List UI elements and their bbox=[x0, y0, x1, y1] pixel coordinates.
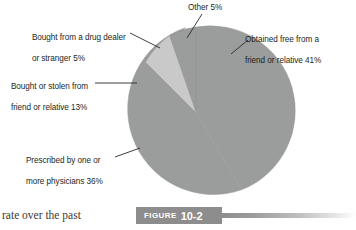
label-drug-dealer: Bought from a drug dealer or stranger 5% bbox=[23, 23, 126, 74]
label-obtained-free-line1: Obtained free from a bbox=[245, 35, 319, 44]
label-prescribed-line2: more physicians 36% bbox=[26, 177, 103, 186]
label-prescribed: Prescribed by one or more physicians 36% bbox=[17, 146, 103, 197]
figure-page: Other 5% Obtained free from a friend or … bbox=[0, 0, 356, 230]
label-bought-stolen-line1: Bought or stolen from bbox=[11, 82, 88, 91]
label-bought-stolen-line2: friend or relative 13% bbox=[11, 103, 87, 112]
leader-line-drug-dealer bbox=[130, 33, 160, 48]
label-drug-dealer-line1: Bought from a drug dealer bbox=[32, 33, 126, 42]
body-text-fragment: rate over the past bbox=[2, 209, 81, 221]
leader-line-prescribed bbox=[115, 148, 140, 157]
label-obtained-free-line2: friend or relative 41% bbox=[245, 56, 321, 65]
label-other: Other 5% bbox=[188, 3, 222, 13]
label-prescribed-line1: Prescribed by one or bbox=[26, 156, 101, 165]
figure-rule-bar bbox=[222, 213, 356, 218]
label-bought-stolen: Bought or stolen from friend or relative… bbox=[2, 72, 88, 123]
figure-word: FIGURE bbox=[136, 211, 177, 220]
label-drug-dealer-line2: or stranger 5% bbox=[32, 54, 85, 63]
label-obtained-free: Obtained free from a friend or relative … bbox=[236, 25, 321, 76]
figure-number: 10-2 bbox=[177, 210, 203, 222]
figure-number-badge: FIGURE 10-2 bbox=[136, 207, 222, 224]
